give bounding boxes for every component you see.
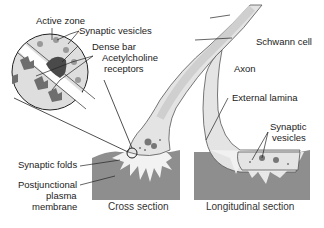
label-active-zone: Active zone — [36, 16, 85, 26]
label-synaptic-vesicles-long-1: Synaptic — [270, 122, 306, 132]
label-axon: Axon — [234, 64, 256, 74]
label-ach-receptors-2: receptors — [104, 64, 144, 74]
inset-magnification — [12, 34, 95, 110]
label-external-lamina: External lamina — [232, 93, 297, 103]
caption-longitudinal-section: Longitudinal section — [206, 201, 294, 212]
label-synaptic-vesicles-long-2: vesicles — [272, 133, 306, 143]
label-schwann-cell: Schwann cell — [256, 37, 312, 47]
label-synaptic-folds: Synaptic folds — [18, 160, 77, 170]
label-postjunctional-2: plasma — [46, 191, 77, 201]
label-postjunctional-3: membrane — [32, 202, 77, 212]
label-dense-bar: Dense bar — [92, 42, 136, 52]
caption-cross-section: Cross section — [108, 201, 169, 212]
label-postjunctional-1: Postjunctional — [18, 180, 77, 190]
label-synaptic-vesicles-inset: Synaptic vesicles — [79, 26, 152, 36]
label-ach-receptors-1: Acetylcholine — [102, 53, 158, 63]
